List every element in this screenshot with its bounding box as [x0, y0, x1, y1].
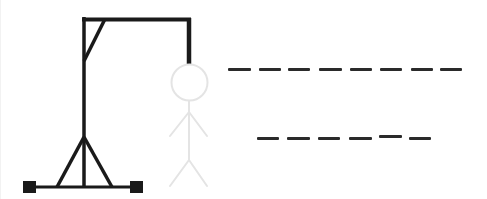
hangman-figure — [170, 65, 208, 187]
hangman-drawing — [0, 0, 487, 199]
letter-slot — [228, 68, 251, 71]
gallows-brace — [84, 19, 105, 61]
figure-left-arm — [170, 112, 189, 136]
figure-left-leg — [170, 160, 189, 186]
gallows-left-support — [57, 137, 84, 187]
letter-slot — [411, 68, 433, 71]
letter-slot — [288, 68, 310, 71]
gallows — [23, 17, 191, 193]
letter-slot — [318, 137, 340, 140]
gallows-right-foot — [130, 181, 143, 193]
letter-slot — [440, 68, 462, 71]
letter-slot — [409, 137, 431, 140]
figure-head — [172, 65, 208, 101]
letter-slot — [379, 135, 402, 138]
gallows-right-support — [84, 137, 112, 187]
gallows-left-foot — [23, 181, 36, 193]
letter-slot — [257, 137, 279, 140]
figure-right-leg — [189, 160, 207, 186]
figure-right-arm — [189, 112, 207, 136]
letter-slot — [319, 68, 342, 71]
letter-slot — [380, 68, 402, 71]
letter-slot — [350, 68, 372, 71]
letter-slot — [259, 68, 281, 71]
letter-slot — [287, 137, 310, 140]
letter-slot — [349, 137, 372, 140]
hangman-game — [0, 0, 487, 199]
